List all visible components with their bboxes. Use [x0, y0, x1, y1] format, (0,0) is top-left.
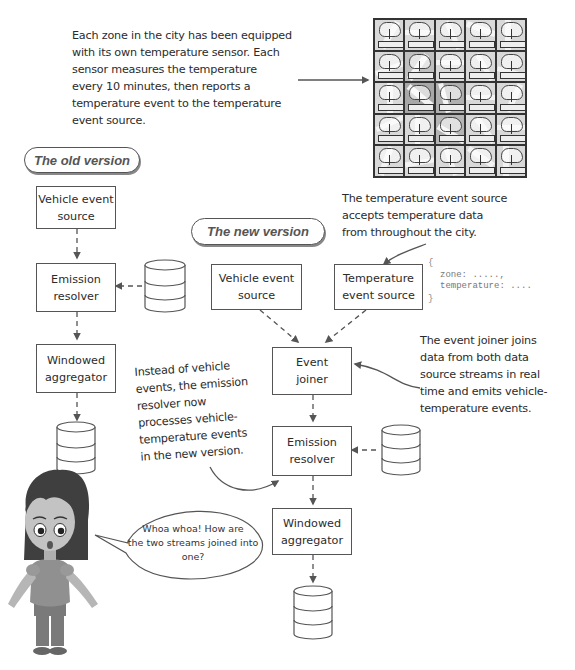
sensor-cell: [374, 82, 404, 114]
cloud-upload-sensor-icon: [501, 85, 523, 100]
new-version-label: The new version: [191, 218, 325, 245]
cloud-upload-sensor-icon: [470, 117, 492, 132]
note-line: temperature events.: [420, 400, 547, 417]
sensor-cell: [496, 19, 526, 51]
intro-line: Each zone in the city has been equipped: [72, 27, 322, 44]
sensor-cell: [435, 51, 465, 83]
cloud-upload-sensor-icon: [440, 54, 462, 69]
new-arrow-vehicle-to-joiner: [260, 310, 298, 342]
sensor-cell: [435, 19, 465, 51]
cloud-upload-sensor-icon: [440, 117, 462, 132]
intro-description: Each zone in the city has been equipped …: [72, 27, 322, 129]
box-line: source: [238, 287, 275, 304]
event-joiner-box: Event joiner: [272, 347, 352, 395]
event-joiner-note: The event joiner joins data from both da…: [420, 332, 547, 417]
bubble-line: the two streams joined into: [126, 536, 260, 550]
note-line: data from both data: [420, 349, 547, 366]
new-emission-resolver-box: Emission resolver: [272, 426, 352, 476]
cloud-upload-sensor-icon: [379, 22, 401, 37]
sensor-cell: [404, 114, 434, 146]
old-windowed-aggregator-box: Windowed aggregator: [36, 344, 116, 393]
intro-line: with its own temperature sensor. Each: [72, 44, 322, 61]
box-line: event source: [342, 287, 415, 304]
note-line: time and emits vehicle-: [420, 383, 547, 400]
note-line: The event joiner joins: [420, 332, 547, 349]
sensor-cell: [435, 114, 465, 146]
old-version-label: The old version: [24, 147, 140, 173]
new-arrow-temperature-to-joiner: [326, 310, 366, 342]
intro-line: every 10 minutes, then reports a: [72, 78, 322, 95]
sensor-cell: [435, 145, 465, 177]
sensor-cell: [496, 145, 526, 177]
payload-close-brace: }: [428, 294, 433, 304]
box-line: resolver: [289, 451, 334, 468]
sensor-cell: [404, 51, 434, 83]
cloud-upload-sensor-icon: [470, 54, 492, 69]
character-illustration: [8, 470, 98, 655]
box-line: joiner: [296, 371, 328, 388]
cloud-upload-sensor-icon: [440, 22, 462, 37]
joiner-note-arrow: [355, 364, 420, 388]
sensor-cell: [496, 82, 526, 114]
emission-resolver-note: Instead of vehicle events, the emission …: [134, 356, 253, 466]
sensor-cell: [374, 51, 404, 83]
old-vehicle-event-source-box: Vehicle event source: [36, 186, 116, 229]
cloud-upload-sensor-icon: [379, 85, 401, 100]
temperature-source-note: The temperature event source accepts tem…: [342, 190, 507, 241]
sensor-cell: [465, 145, 495, 177]
box-line: Vehicle event: [219, 270, 294, 287]
box-line: Windowed: [283, 515, 341, 532]
cloud-upload-sensor-icon: [470, 85, 492, 100]
cloud-upload-sensor-icon: [379, 54, 401, 69]
box-line: Windowed: [47, 352, 105, 369]
cloud-upload-sensor-icon: [409, 148, 431, 163]
cloud-upload-sensor-icon: [470, 148, 492, 163]
sensor-cell: [465, 82, 495, 114]
resolver-note-arrow: [210, 467, 278, 490]
cloud-upload-sensor-icon: [440, 85, 462, 100]
cloud-upload-sensor-icon: [379, 148, 401, 163]
box-line: aggregator: [45, 369, 107, 386]
box-line: Emission: [51, 271, 101, 288]
new-reference-database-icon: [382, 425, 420, 475]
sensor-cell: [404, 145, 434, 177]
payload-line: temperature: ....: [440, 281, 532, 292]
box-line: resolver: [53, 288, 98, 305]
sensor-cell: [374, 19, 404, 51]
box-line: Temperature: [343, 270, 414, 287]
sensor-cell: [465, 19, 495, 51]
new-windowed-aggregator-box: Windowed aggregator: [272, 508, 352, 555]
sensor-cell: [465, 114, 495, 146]
old-reference-database-icon: [145, 260, 185, 312]
cloud-upload-sensor-icon: [501, 54, 523, 69]
box-line: Vehicle event: [38, 191, 113, 208]
note-line: from throughout the city.: [342, 224, 507, 241]
sensor-cell: [465, 51, 495, 83]
temperature-event-source-box: Temperature event source: [334, 264, 423, 310]
cloud-upload-sensor-icon: [501, 22, 523, 37]
old-emission-resolver-box: Emission resolver: [36, 263, 116, 312]
box-line: aggregator: [281, 532, 343, 549]
payload-open-brace: {: [428, 258, 433, 268]
intro-line: sensor measures the temperature: [72, 61, 322, 78]
cloud-upload-sensor-icon: [409, 117, 431, 132]
intro-line: event source.: [72, 112, 322, 129]
bubble-line: Whoa whoa! How are: [126, 522, 260, 536]
old-output-database-icon: [57, 422, 95, 474]
note-line: source streams in real: [420, 366, 547, 383]
sensor-cell: [496, 51, 526, 83]
cloud-upload-sensor-icon: [409, 54, 431, 69]
payload-line: zone: .....,: [440, 270, 532, 281]
box-line: source: [57, 208, 94, 225]
sensor-cell: [435, 82, 465, 114]
city-sensor-grid: [373, 18, 527, 178]
sensor-cell: [374, 145, 404, 177]
sensor-cell: [404, 82, 434, 114]
note-line: The temperature event source: [342, 190, 507, 207]
bubble-line: one?: [126, 550, 260, 564]
box-line: Event: [296, 354, 328, 371]
sensor-cell: [374, 114, 404, 146]
cloud-upload-sensor-icon: [501, 117, 523, 132]
cloud-upload-sensor-icon: [379, 117, 401, 132]
sensor-cell: [496, 114, 526, 146]
